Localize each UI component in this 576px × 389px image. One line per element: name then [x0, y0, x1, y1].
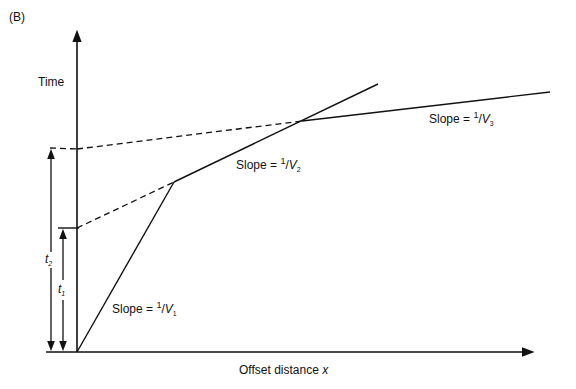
panel-label: (B)	[9, 10, 25, 24]
intercept-1-dashed	[77, 182, 174, 228]
traveltime-diagram: (B) Time t2 t1 Slope = 1/V1 Slope = 1/V2…	[0, 0, 576, 389]
slope-v2-label: Slope = 1/V2	[236, 156, 301, 173]
intercept-2-dashed	[50, 148, 77, 149]
t1-label: t1	[58, 282, 65, 297]
y-axis-label: Time	[38, 75, 64, 89]
x-axis-label: Offset distance x	[239, 363, 328, 377]
direct-wave-line	[77, 182, 174, 352]
intercept-2-dashed-ext	[77, 121, 302, 149]
slope-v1-label: Slope = 1/V1	[112, 300, 177, 317]
diagram-graphics	[0, 0, 576, 389]
refraction-2-line	[302, 92, 550, 121]
slope-v3-label: Slope = 1/V3	[429, 110, 494, 127]
t2-label: t2	[45, 252, 52, 267]
